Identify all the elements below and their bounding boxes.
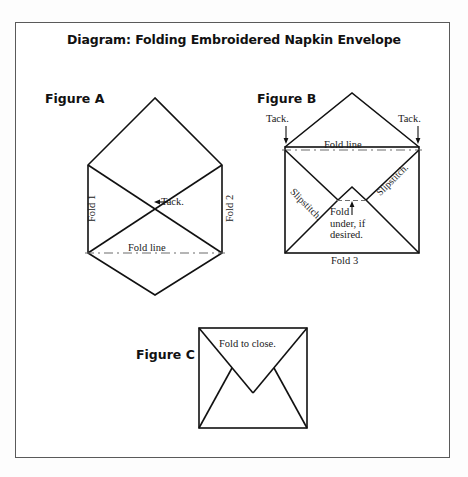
figure-b-fold-under-line2: under, if [330, 218, 386, 230]
page-title: Diagram: Folding Embroidered Napkin Enve… [0, 32, 468, 47]
figure-b-tack-left-label: Tack. [266, 113, 289, 124]
figure-b-label: Figure B [257, 91, 316, 106]
figure-a-label: Figure A [45, 91, 104, 106]
figure-b-tack-right-label: Tack. [398, 113, 421, 124]
figure-b-fold-under-line1: Fold [330, 206, 386, 218]
figure-c-label: Figure C [136, 347, 195, 362]
figure-b-fold3-label: Fold 3 [331, 255, 358, 266]
figure-c-fold-to-close-label: Fold to close. [219, 338, 276, 349]
diagram-page: Diagram: Folding Embroidered Napkin Enve… [0, 0, 468, 477]
figure-b-fold-under-note: Fold under, if desired. [330, 206, 386, 241]
figure-a-fold-line-label: Fold line [128, 242, 166, 253]
figure-a-fold1-label: Fold 1 [86, 195, 97, 222]
figure-a-fold2-label: Fold 2 [224, 195, 235, 222]
figure-b-fold-line-label: Fold line [324, 139, 362, 150]
figure-a-tack-label: Tack. [161, 196, 184, 207]
figure-b-fold-under-line3: desired. [330, 229, 386, 241]
